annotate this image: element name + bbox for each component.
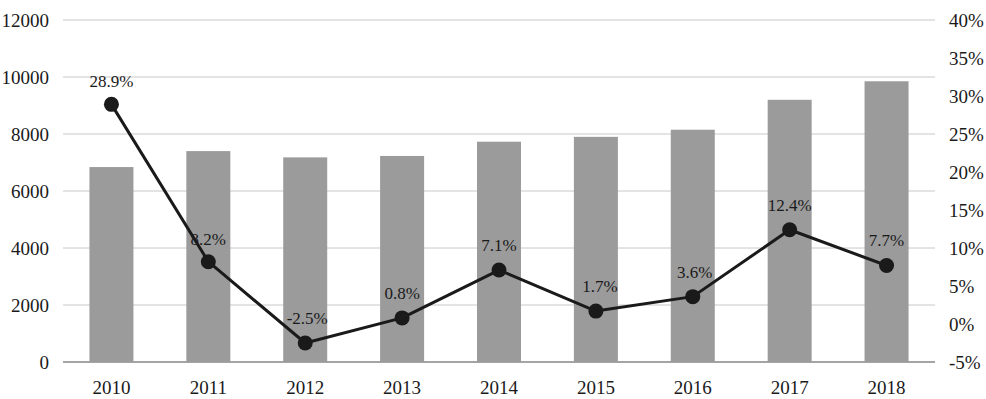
bar[interactable] [574, 137, 618, 362]
y2-axis-tick-label: 25% [949, 125, 984, 144]
x-axis-category-label: 2011 [190, 378, 227, 397]
x-axis-category-label: 2015 [577, 378, 615, 397]
line-data-point[interactable] [782, 222, 797, 237]
bar[interactable] [671, 130, 715, 362]
x-axis-category-label: 2017 [771, 378, 809, 397]
y-axis-tick-label: 12000 [2, 11, 50, 30]
y2-axis-tick-label: 40% [949, 11, 984, 30]
line-data-point[interactable] [395, 310, 410, 325]
x-axis-category-label: 2014 [480, 378, 518, 397]
data-point-label: 12.4% [768, 197, 812, 214]
y-axis-tick-label: 4000 [11, 239, 49, 258]
line-data-point[interactable] [588, 304, 603, 319]
y2-axis-tick-label: 0% [949, 315, 974, 334]
data-point-label: 8.2% [191, 231, 226, 248]
y-axis-tick-label: 8000 [11, 125, 49, 144]
line-data-point[interactable] [298, 336, 313, 351]
line-data-point[interactable] [201, 254, 216, 269]
bar[interactable] [89, 167, 133, 362]
x-axis-category-label: 2013 [383, 378, 421, 397]
chart-container: 020004000600080001000012000-5%0%5%10%15%… [0, 0, 986, 399]
data-point-label: 7.7% [869, 232, 904, 249]
bar[interactable] [865, 81, 909, 362]
data-point-label: -2.5% [287, 310, 328, 327]
data-point-label: 1.7% [582, 278, 617, 295]
data-point-label: 3.6% [677, 264, 712, 281]
y2-axis-tick-label: 35% [949, 49, 984, 68]
line-data-point[interactable] [685, 289, 700, 304]
data-point-label: 0.8% [384, 285, 419, 302]
y2-axis-tick-label: 20% [949, 163, 984, 182]
y2-axis-tick-label: 5% [949, 277, 974, 296]
line-data-point[interactable] [104, 97, 119, 112]
y2-axis-tick-label: 15% [949, 201, 984, 220]
bar[interactable] [380, 156, 424, 362]
x-axis-category-label: 2012 [286, 378, 324, 397]
y-axis-tick-label: 10000 [2, 68, 50, 87]
y-axis-tick-label: 2000 [11, 296, 49, 315]
y-axis-tick-label: 6000 [11, 182, 49, 201]
data-point-label: 7.1% [481, 237, 516, 254]
y2-axis-tick-label: 10% [949, 239, 984, 258]
line-data-point[interactable] [492, 263, 507, 278]
y-axis-tick-label: 0 [40, 353, 50, 372]
y2-axis-tick-label: -5% [949, 353, 981, 372]
line-data-point[interactable] [879, 258, 894, 273]
x-axis-category-label: 2010 [92, 378, 130, 397]
x-axis-category-label: 2016 [674, 378, 712, 397]
x-axis-category-label: 2018 [868, 378, 906, 397]
chart-plot-area [0, 0, 986, 399]
y2-axis-tick-label: 30% [949, 87, 984, 106]
data-point-label: 28.9% [89, 73, 133, 90]
